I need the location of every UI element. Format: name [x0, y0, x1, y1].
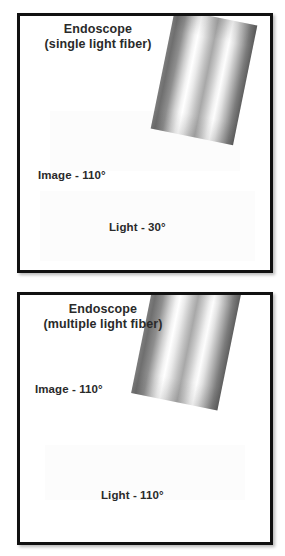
endoscope-tube-graphic-panel-1	[151, 13, 258, 145]
scan-artifact	[50, 111, 240, 171]
tube-end-shading	[151, 13, 258, 145]
panel-1-title-line-2: (single light fiber)	[33, 37, 163, 52]
panel-2-light-angle-label: Light - 110°	[101, 488, 164, 502]
panel-2-title-line-2: (multiple light fiber)	[33, 317, 173, 332]
panel-1-title: Endoscope (single light fiber)	[33, 22, 163, 53]
tube-gradient-fill	[151, 13, 258, 145]
panel-2-title-line-1: Endoscope	[33, 302, 173, 317]
endoscope-light-distribution-figure: Endoscope (single light fiber) Image - 1…	[0, 0, 285, 556]
panel-1-light-angle-label: Light - 30°	[109, 220, 166, 234]
panel-2-image-angle-label: Image - 110°	[35, 382, 103, 396]
panel-1-image-angle-label: Image - 110°	[38, 168, 106, 182]
panel-2-title: Endoscope (multiple light fiber)	[33, 302, 173, 333]
panel-1-title-line-1: Endoscope	[33, 22, 163, 37]
